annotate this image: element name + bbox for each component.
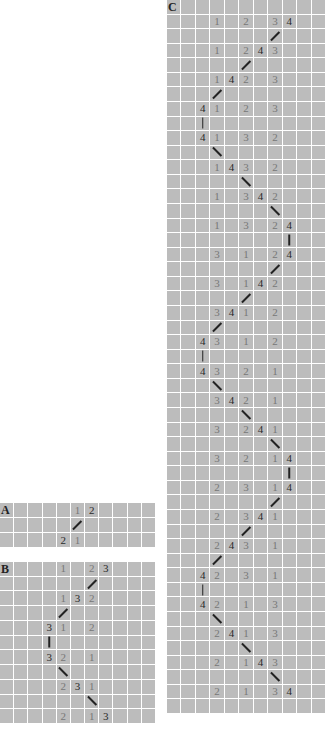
- grid-cell: [268, 291, 281, 305]
- grid-cell: [312, 146, 325, 160]
- grid-cell: [128, 709, 141, 723]
- grid-cell: [268, 641, 281, 655]
- grid-cell: [283, 466, 296, 480]
- grid-number: 1: [57, 621, 70, 635]
- grid-cell: [210, 641, 223, 655]
- grid-cell: [113, 665, 126, 679]
- grid-cell: [57, 503, 70, 517]
- grid-cell: [283, 525, 296, 539]
- grid-cell: [254, 699, 267, 713]
- grid-cell: [225, 87, 238, 101]
- grid-cell: [196, 539, 209, 553]
- grid-cell: [113, 695, 126, 709]
- grid-cell: [283, 262, 296, 276]
- grid-number: 2: [57, 650, 70, 664]
- grid-cell: [297, 481, 310, 495]
- grid-cell: [254, 641, 267, 655]
- grid-cell: [181, 0, 194, 14]
- grid-cell: [196, 117, 209, 131]
- grid-cell: [312, 335, 325, 349]
- grid-cell: [239, 670, 252, 684]
- grid-cell: [142, 665, 155, 679]
- vertical-line-icon: [289, 234, 291, 245]
- grid-cell: [14, 680, 27, 694]
- grid-cell: [181, 583, 194, 597]
- grid-cell: [225, 423, 238, 437]
- grid-cell: [113, 503, 126, 517]
- grid-number: 3: [210, 452, 223, 466]
- grid-cell: [283, 291, 296, 305]
- grid-cell: [312, 627, 325, 641]
- grid-cell: [254, 612, 267, 626]
- grid-cell: [297, 73, 310, 87]
- grid-cell: [312, 306, 325, 320]
- grid-cell: [181, 379, 194, 393]
- grid-cell: [254, 204, 267, 218]
- grid-number: 2: [239, 44, 252, 58]
- grid-cell: [113, 621, 126, 635]
- grid-cell: [283, 627, 296, 641]
- grid-cell: [181, 335, 194, 349]
- grid-cell: [167, 219, 180, 233]
- grid-cell: [210, 233, 223, 247]
- diagonal-down-line-icon: [270, 439, 280, 449]
- grid-cell: [196, 233, 209, 247]
- grid-cell: [297, 248, 310, 262]
- grid-cell: [268, 58, 281, 72]
- grid-number: 2: [210, 597, 223, 611]
- grid-cell: [297, 670, 310, 684]
- grid-cell: [312, 117, 325, 131]
- grid-cell: [210, 321, 223, 335]
- grid-number: 3: [210, 393, 223, 407]
- grid-cell: [0, 591, 13, 605]
- grid-cell: [297, 393, 310, 407]
- grid-cell: [85, 533, 98, 547]
- diagonal-down-line-icon: [212, 148, 222, 158]
- grid-cell: [297, 364, 310, 378]
- grid-cell: [71, 650, 84, 664]
- grid-cell: [283, 554, 296, 568]
- grid-cell: [312, 656, 325, 670]
- grid-cell: [254, 466, 267, 480]
- grid-cell: [167, 452, 180, 466]
- grid-cell: [283, 102, 296, 116]
- grid-cell: [254, 233, 267, 247]
- grid-number: 2: [239, 15, 252, 29]
- grid-number: 1: [210, 73, 223, 87]
- grid-cell: [225, 175, 238, 189]
- grid-cell: [99, 680, 112, 694]
- grid-cell: [312, 525, 325, 539]
- grid-cell: [196, 583, 209, 597]
- grid-cell: [225, 321, 238, 335]
- grid-cell: [297, 495, 310, 509]
- grid-number: 3: [210, 364, 223, 378]
- grid-cell: [283, 29, 296, 43]
- grid-cell: [312, 437, 325, 451]
- grid-cell: [254, 627, 267, 641]
- grid-cell: [239, 0, 252, 14]
- grid-cell: [225, 58, 238, 72]
- grid-cell: [312, 423, 325, 437]
- grid-cell: [297, 306, 310, 320]
- grid-cell: [210, 350, 223, 364]
- grid-cell: [268, 525, 281, 539]
- grid-cell: [283, 670, 296, 684]
- grid-cell: [181, 29, 194, 43]
- grid-cell: [268, 175, 281, 189]
- diagonal-up-line-icon: [212, 556, 222, 566]
- grid-cell: [254, 583, 267, 597]
- grid-cell: [181, 219, 194, 233]
- grid-cell: [196, 58, 209, 72]
- grid-cell: [14, 562, 27, 576]
- grid-cell: [268, 146, 281, 160]
- grid-number: 1: [85, 709, 98, 723]
- grid-cell: [167, 554, 180, 568]
- grid-cell: [297, 452, 310, 466]
- grid-cell: [297, 277, 310, 291]
- grid-cell: [0, 650, 13, 664]
- grid-cell: [43, 533, 56, 547]
- grid-cell: [297, 29, 310, 43]
- grid-cell: [283, 408, 296, 422]
- grid-cell: [312, 233, 325, 247]
- diagonal-up-line-icon: [212, 89, 222, 99]
